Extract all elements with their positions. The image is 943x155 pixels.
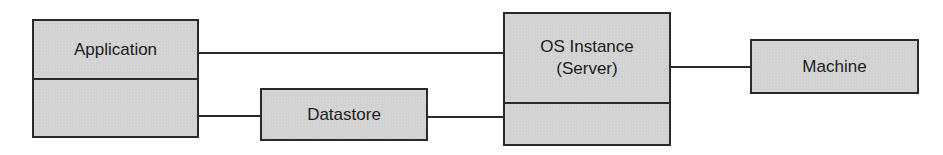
- datastore-section: Datastore: [262, 90, 426, 139]
- os-instance-upper-section: OS Instance (Server): [505, 14, 669, 102]
- machine-label: Machine: [802, 56, 866, 78]
- os-instance-node: OS Instance (Server): [503, 12, 671, 146]
- application-upper-section: Application: [34, 21, 197, 78]
- datastore-label: Datastore: [307, 104, 381, 126]
- diagram-canvas: Application Datastore OS Instance (Serve…: [0, 0, 943, 155]
- machine-section: Machine: [752, 41, 917, 92]
- application-label: Application: [74, 39, 157, 61]
- os-instance-label-line1: OS Instance: [540, 36, 634, 58]
- connector-os-instance-machine: [670, 66, 751, 68]
- os-instance-label-line2: (Server): [556, 58, 617, 80]
- datastore-node: Datastore: [260, 88, 428, 141]
- connector-datastore-os-instance: [427, 116, 504, 118]
- connector-application-datastore: [198, 115, 261, 117]
- os-instance-lower-section: [505, 104, 669, 144]
- connector-application-os-instance: [198, 52, 504, 54]
- application-lower-section: [34, 80, 197, 136]
- application-node: Application: [32, 19, 199, 138]
- machine-node: Machine: [750, 39, 919, 94]
